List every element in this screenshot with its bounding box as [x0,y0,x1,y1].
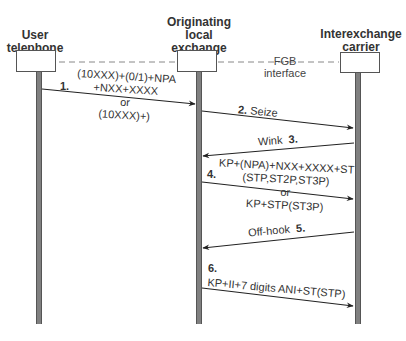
msg-3-label: Wink 3. [258,133,299,149]
msg-1-number: 1. [60,80,69,93]
msg-number: 3. [288,133,298,146]
interface-line: interface [255,67,315,79]
msg-1-label: (10XXX)+(0/1)+NPA +NXX+XXXX or (10XXX)+) [69,67,182,126]
msg-line: Seize [250,104,278,118]
interface-label: FGB interface [255,55,315,79]
msg-6-number: 6. [208,262,217,275]
interface-line: FGB [255,55,315,67]
msg-4-label: KP+(NPA)+NXX+XXXX+ST (STP,ST2P,ST3P) or … [209,156,362,216]
msg-line: Wink [258,134,283,148]
msg-number: 5. [295,222,305,235]
msg-line: Off-hook [248,223,291,239]
msg-number: 2. [238,103,248,116]
